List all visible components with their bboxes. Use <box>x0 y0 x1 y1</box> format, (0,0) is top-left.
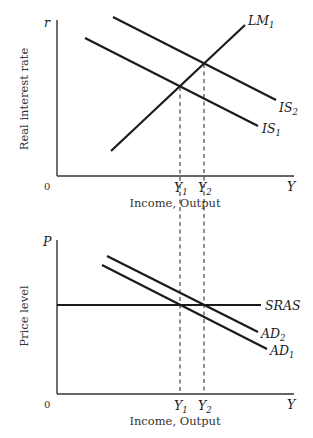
bottom-x-axis-label: Income, Output <box>129 414 221 428</box>
adas-panel: P 0 Y Price level Income, Output SRAS AD… <box>17 234 301 428</box>
is2-label: IS2 <box>278 100 298 117</box>
top-y2-tick: Y2 <box>198 180 212 197</box>
top-y1-tick: Y1 <box>174 180 188 197</box>
bottom-y-axis-symbol: P <box>42 234 52 249</box>
is2-curve <box>113 17 276 100</box>
sras-label: SRAS <box>265 298 301 313</box>
ad1-curve <box>102 265 267 349</box>
ad1-label: AD1 <box>269 343 294 360</box>
lm1-curve <box>111 25 245 151</box>
top-origin-label: 0 <box>44 181 50 192</box>
bottom-y-axis-label: Price level <box>17 285 31 347</box>
top-x-axis-label: Income, Output <box>129 196 221 210</box>
is1-label: IS1 <box>261 121 281 138</box>
ad2-label: AD2 <box>260 326 285 343</box>
islm-adas-diagram: r 0 Y Real interest rate Income, Output … <box>0 0 313 438</box>
bottom-y1-tick: Y1 <box>174 398 188 415</box>
ad2-curve <box>107 256 258 332</box>
islm-panel: r 0 Y Real interest rate Income, Output … <box>17 13 298 210</box>
lm1-label: LM1 <box>247 13 275 30</box>
top-y-axis-label: Real interest rate <box>17 48 31 151</box>
bottom-x-axis-symbol: Y <box>287 397 297 412</box>
top-x-axis-symbol: Y <box>287 179 297 194</box>
is1-curve <box>85 38 258 126</box>
bottom-origin-label: 0 <box>44 399 50 410</box>
top-y-axis-symbol: r <box>44 15 51 30</box>
bottom-y2-tick: Y2 <box>198 398 212 415</box>
